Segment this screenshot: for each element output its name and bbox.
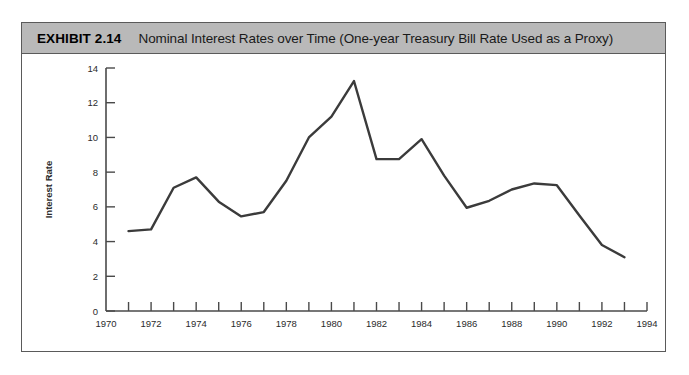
x-axis-title: Year: [366, 349, 386, 351]
y-tick-label: 14: [87, 63, 98, 74]
y-tick-label: 6: [93, 201, 98, 212]
y-tick-label: 8: [93, 167, 98, 178]
interest-rate-line: [129, 81, 625, 257]
y-tick-label: 4: [93, 236, 98, 247]
y-tick-label: 0: [93, 306, 98, 317]
line-chart-svg: 02468101214 1970197219741976197819801982…: [22, 54, 665, 351]
x-tick-label: 1972: [141, 318, 162, 329]
x-tick-label: 1988: [501, 318, 522, 329]
x-axis-ticks: 1970197219741976197819801982198419861988…: [95, 302, 657, 329]
exhibit-number-label: EXHIBIT 2.14: [22, 31, 121, 46]
x-tick-label: 1978: [276, 318, 297, 329]
x-tick-label: 1982: [366, 318, 387, 329]
x-tick-label: 1974: [186, 318, 207, 329]
y-tick-label: 2: [93, 271, 98, 282]
x-tick-label: 1994: [636, 318, 657, 329]
x-tick-label: 1990: [546, 318, 567, 329]
x-tick-label: 1986: [456, 318, 477, 329]
x-tick-label: 1992: [591, 318, 612, 329]
exhibit-header: EXHIBIT 2.14 Nominal Interest Rates over…: [22, 23, 665, 54]
y-axis-ticks: 02468101214: [87, 63, 115, 317]
x-tick-label: 1976: [231, 318, 252, 329]
x-tick-label: 1970: [95, 318, 116, 329]
x-tick-label: 1980: [321, 318, 342, 329]
exhibit-title: Nominal Interest Rates over Time (One-ye…: [121, 31, 613, 46]
chart-plot-area: 02468101214 1970197219741976197819801982…: [22, 54, 665, 352]
x-tick-label: 1984: [411, 318, 432, 329]
y-tick-label: 12: [87, 97, 98, 108]
y-tick-label: 10: [87, 132, 98, 143]
exhibit-frame: EXHIBIT 2.14 Nominal Interest Rates over…: [21, 22, 666, 352]
y-axis-title: Interest Rate: [43, 161, 54, 219]
